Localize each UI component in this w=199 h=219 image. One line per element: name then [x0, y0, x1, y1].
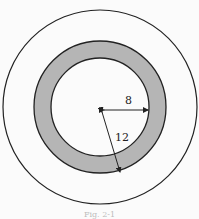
ring-inner-edge	[51, 58, 149, 156]
outer-circle	[3, 10, 197, 204]
inner-radius-label: 8	[125, 94, 132, 107]
shaded-ring	[43, 50, 158, 165]
figure-caption: Fig. 2-1	[0, 210, 199, 219]
concentric-circles-diagram	[0, 0, 199, 219]
outer-radius-label: 12	[115, 131, 129, 144]
figure: 8 12 Fig. 2-1	[0, 0, 199, 219]
